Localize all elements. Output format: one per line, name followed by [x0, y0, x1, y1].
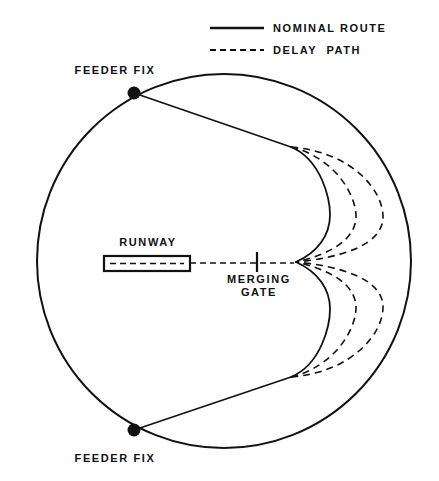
diagram-background — [0, 0, 439, 481]
runway-label: RUNWAY — [108, 236, 188, 249]
runway-rect — [104, 256, 190, 271]
merging-gate-label: MERGING GATE — [216, 273, 302, 299]
feeder-fix-dot-top — [128, 87, 141, 100]
feeder-fix-label-bottom: FEEDER FIX — [67, 452, 163, 465]
merging-gate-diagram — [0, 0, 439, 481]
feeder-fix-label-top: FEEDER FIX — [67, 64, 163, 77]
feeder-fix-dot-bottom — [128, 424, 141, 437]
legend-label-nominal-route: NOMINAL ROUTE — [273, 22, 386, 35]
legend-label-delay-path: DELAY PATH — [273, 44, 361, 57]
